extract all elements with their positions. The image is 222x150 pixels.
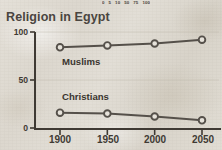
data-point-christians-2050	[199, 117, 206, 124]
gridlines	[35, 32, 219, 80]
data-point-muslims-2050	[199, 36, 206, 43]
data-point-muslims-1950	[104, 42, 111, 49]
line-chart-plot	[0, 0, 222, 150]
series-muslims	[57, 36, 206, 50]
data-point-christians-2000	[151, 113, 158, 120]
data-point-christians-1900	[57, 109, 64, 116]
series-christians	[57, 109, 206, 123]
data-point-christians-1950	[104, 110, 111, 117]
data-point-muslims-1900	[57, 44, 64, 51]
series-line-muslims	[60, 40, 202, 48]
series-line-christians	[60, 113, 202, 121]
data-point-muslims-2000	[151, 40, 158, 47]
